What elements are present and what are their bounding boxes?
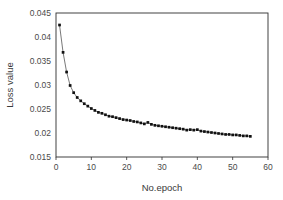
data-point-marker [178,127,181,130]
x-tick-label: 0 [54,162,59,172]
data-point-marker [150,123,153,126]
data-point-marker [196,128,199,131]
data-point-marker [238,134,241,137]
y-tick-label: 0.03 [34,80,51,90]
data-point-marker [242,135,245,138]
data-point-marker [125,119,128,122]
data-point-marker [111,115,114,118]
data-point-marker [97,111,100,114]
x-tick-label: 20 [122,162,132,172]
data-point-marker [83,102,86,105]
data-point-marker [86,105,89,108]
data-point-marker [115,116,118,119]
data-point-marker [171,126,174,129]
data-point-marker [214,132,217,135]
data-point-marker [161,125,164,128]
data-point-marker [139,122,142,125]
data-point-marker [200,130,203,133]
data-point-marker [147,121,150,124]
data-point-marker [94,109,97,112]
data-point-marker [101,112,104,115]
data-point-marker [221,133,224,136]
data-point-marker [192,129,195,132]
loss-curve-chart: 0102030405060 0.0150.020.0250.030.0350.0… [0,0,283,200]
data-point-marker [224,133,227,136]
data-point-marker [164,125,167,128]
data-point-marker [90,107,93,110]
data-point-marker [136,121,139,124]
y-axis-title: Loss value [4,62,15,107]
data-point-marker [235,134,238,137]
data-point-marker [132,120,135,123]
data-point-marker [228,133,231,136]
y-axis-tick-labels: 0.0150.020.0250.030.0350.040.045 [30,8,52,162]
data-point-marker [203,130,206,133]
data-point-marker [79,99,82,102]
data-point-marker [231,134,234,137]
x-axis-title: No.epoch [142,182,183,193]
data-point-marker [143,123,146,126]
data-point-marker [245,135,248,138]
y-tick-label: 0.025 [30,104,52,114]
data-point-marker [72,91,75,94]
data-point-marker [185,129,188,132]
data-point-marker [157,124,160,127]
y-tick-label: 0.015 [30,152,52,162]
data-point-marker [58,24,61,27]
x-tick-label: 40 [193,162,203,172]
x-tick-label: 10 [87,162,97,172]
data-point-marker [69,84,72,87]
y-tick-label: 0.04 [34,32,51,42]
series-markers-loss-value [58,24,252,138]
data-point-marker [65,71,68,74]
y-tick-label: 0.02 [34,128,51,138]
data-point-marker [118,117,121,120]
chart-figure: 0102030405060 0.0150.020.0250.030.0350.0… [0,0,283,200]
x-tick-label: 50 [228,162,238,172]
x-tick-label: 30 [157,162,167,172]
data-point-marker [175,127,178,130]
data-point-marker [129,119,132,122]
data-series-group [58,24,252,138]
data-point-marker [108,115,111,118]
data-point-marker [210,131,213,134]
data-point-marker [154,124,157,127]
data-point-marker [249,135,252,138]
data-point-marker [122,118,125,121]
series-line-loss-value [60,25,251,136]
y-tick-label: 0.045 [30,8,52,18]
data-point-marker [207,131,210,134]
x-axis-tick-labels: 0102030405060 [54,162,273,172]
y-tick-label: 0.035 [30,56,52,66]
x-tick-label: 60 [263,162,273,172]
data-point-marker [62,51,65,54]
data-point-marker [182,128,185,131]
data-point-marker [189,128,192,131]
data-point-marker [168,126,171,129]
data-point-marker [217,132,220,135]
data-point-marker [104,113,107,116]
data-point-marker [76,96,79,99]
